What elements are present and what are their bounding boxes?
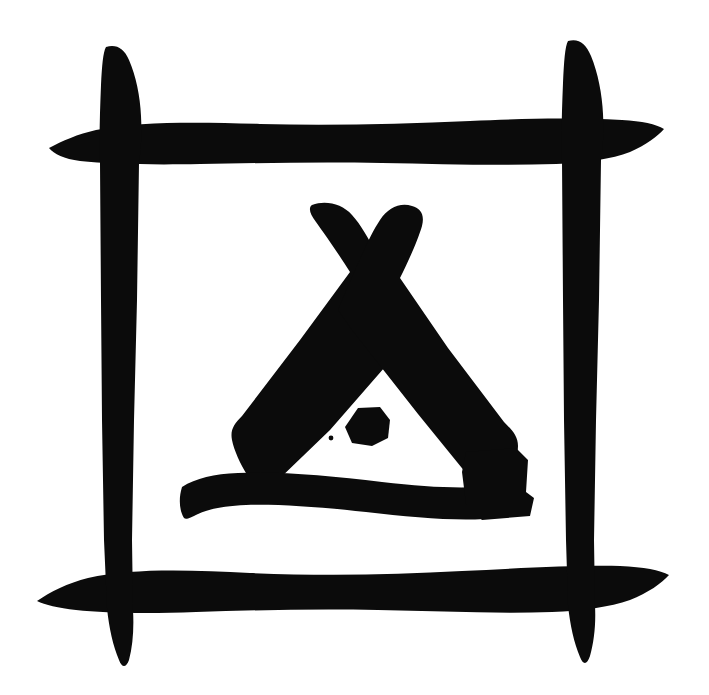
artboard: Teepee Glyph in Brushed Frame black ink … xyxy=(0,0,709,695)
brush-drawing-canvas xyxy=(0,0,709,695)
ink-speck-dot xyxy=(329,436,334,441)
teepee-right-foot-blob xyxy=(462,448,534,520)
